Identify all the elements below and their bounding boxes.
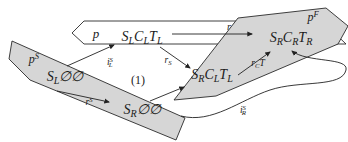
arrow-label-rS: rS [164,55,172,66]
node-SRCRTR: SRCRTR [270,30,313,47]
figure-canvas: p SLCLTL r SRCRTR pF iSL rS (1) SRCLTL r… [0,0,348,142]
arrow-label-iLS: iSL [107,56,114,68]
arrow-label-iRS: iSR [240,104,247,116]
node-SR-empty: SR∅∅ [123,102,161,119]
node-SLCLTL: SLCLTL [121,29,162,46]
commutative-diagram-figure: p SLCLTL r SRCRTR pF iSL rS (1) SRCLTL r… [0,0,348,142]
equation-number: (1) [131,73,145,87]
node-SL-empty: SL∅∅ [47,69,85,86]
node-SRCLTL: SRCLTL [191,67,233,84]
arrow-label-r: r [227,21,231,32]
label-plane-p: p [92,26,100,41]
